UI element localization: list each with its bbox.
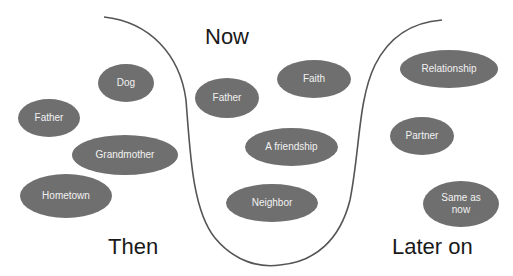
now-item-father: Father: [195, 78, 259, 118]
now-label: Now: [205, 24, 249, 50]
later-item-partner: Partner: [390, 117, 454, 155]
then-now-later-diagram: Now Then Later on Dog Father Grandmother…: [0, 0, 513, 276]
later-item-relationship: Relationship: [400, 50, 498, 88]
then-label: Then: [108, 234, 158, 260]
now-item-neighbor: Neighbor: [226, 184, 318, 222]
now-item-a-friendship: A friendship: [245, 128, 338, 166]
now-item-faith: Faith: [277, 60, 351, 98]
then-item-grandmother: Grandmother: [72, 135, 178, 175]
later-on-label: Later on: [392, 234, 473, 260]
later-item-same-as-now: Same as now: [423, 181, 499, 227]
then-item-father: Father: [18, 99, 80, 137]
then-item-dog: Dog: [98, 64, 154, 102]
then-item-hometown: Hometown: [20, 174, 112, 218]
